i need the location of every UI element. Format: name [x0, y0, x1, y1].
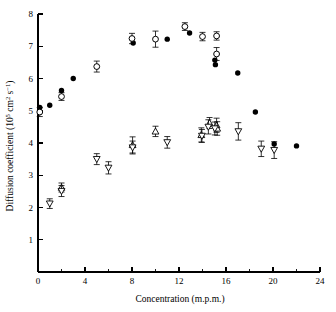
data-point: [152, 126, 159, 136]
scatter-plot: 0481216202412345678 Concentration (m.p.m…: [0, 0, 336, 312]
data-point: [105, 162, 112, 174]
data-point: [71, 76, 76, 81]
open-circle-marker: [153, 36, 159, 42]
x-tick-label: 24: [316, 276, 326, 286]
filled-circle-marker: [213, 62, 218, 67]
open-circle-marker: [214, 33, 220, 39]
y-axis-title-exp3: −1: [4, 84, 11, 91]
triangle-down-marker: [164, 140, 171, 146]
data-point: [46, 199, 53, 209]
data-point: [93, 154, 100, 165]
triangle-down-marker: [93, 156, 100, 162]
svg-text:Diffusion coefficient (105 cm2: Diffusion coefficient (105 cm2 s−1): [4, 81, 16, 212]
y-tick-label: 4: [29, 138, 34, 148]
series-open-triangle-down: [46, 120, 277, 209]
open-circle-marker: [214, 51, 220, 57]
tick-marks: [38, 14, 320, 272]
y-tick-label: 1: [29, 235, 34, 245]
x-tick-label: 0: [36, 276, 41, 286]
data-point: [294, 143, 299, 148]
open-circle-marker: [94, 64, 100, 70]
y-tick-label: 5: [29, 106, 34, 116]
data-point: [129, 141, 136, 154]
axes: [38, 14, 320, 272]
data-point: [213, 62, 218, 67]
series-open-circle: [37, 23, 220, 117]
filled-circle-marker: [253, 109, 258, 114]
y-tick-label: 6: [29, 74, 34, 84]
data-point: [253, 109, 258, 114]
data-point: [235, 123, 242, 140]
data-point: [94, 61, 100, 72]
y-tick-label: 8: [29, 9, 34, 19]
data-point: [214, 32, 220, 40]
filled-circle-marker: [165, 36, 170, 41]
data-point: [235, 70, 240, 75]
data-point: [187, 30, 192, 35]
filled-circle-marker: [187, 30, 192, 35]
data-point: [58, 186, 65, 197]
triangle-down-marker: [105, 165, 112, 171]
triangle-down-marker: [46, 201, 53, 207]
data-point: [182, 23, 188, 31]
figure-container: 0481216202412345678 Concentration (m.p.m…: [0, 0, 336, 312]
data-point: [258, 141, 265, 156]
data-point: [47, 103, 52, 108]
open-circle-marker: [37, 109, 43, 115]
data-point: [165, 36, 170, 41]
y-axis-title: Diffusion coefficient (105 cm2 s−1): [4, 81, 16, 212]
y-tick-label: 7: [29, 41, 34, 51]
triangle-down-marker: [58, 188, 65, 194]
series-open-triangle-up: [58, 118, 220, 192]
x-tick-label: 4: [83, 276, 88, 286]
tick-labels: 0481216202412345678: [29, 9, 326, 286]
filled-circle-marker: [47, 103, 52, 108]
x-tick-label: 16: [222, 276, 232, 286]
data-points: [37, 23, 299, 209]
y-axis-title-tail: ): [5, 81, 16, 84]
data-point: [164, 137, 171, 149]
data-point: [153, 31, 159, 47]
triangle-down-marker: [205, 124, 212, 130]
open-circle-marker: [200, 34, 206, 40]
triangle-up-marker: [152, 128, 159, 134]
data-point: [59, 93, 65, 101]
filled-circle-marker: [294, 143, 299, 148]
y-tick-label: 2: [29, 203, 34, 213]
x-tick-label: 20: [269, 276, 279, 286]
data-point: [199, 129, 206, 142]
filled-circle-marker: [71, 76, 76, 81]
open-circle-marker: [182, 24, 188, 30]
triangle-down-marker: [271, 147, 278, 153]
open-circle-marker: [59, 94, 65, 100]
x-tick-label: 8: [130, 276, 135, 286]
x-tick-label: 12: [175, 276, 184, 286]
filled-circle-marker: [235, 70, 240, 75]
y-axis-title-mid: cm: [5, 99, 15, 114]
series-filled-circle: [37, 30, 299, 148]
open-circle-marker: [129, 36, 135, 42]
triangle-down-marker: [258, 146, 265, 152]
x-axis-title: Concentration (m.p.m.): [135, 294, 224, 305]
data-point: [200, 32, 206, 40]
y-axis-title-main: Diffusion coefficient (10: [5, 117, 16, 211]
y-tick-label: 3: [29, 170, 34, 180]
triangle-down-marker: [235, 129, 242, 135]
